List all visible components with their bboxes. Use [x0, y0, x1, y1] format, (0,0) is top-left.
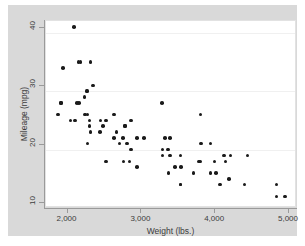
y-tick-label: 10	[8, 196, 37, 205]
scatter-point	[125, 142, 129, 146]
gridline	[46, 33, 295, 34]
scatter-point	[227, 177, 231, 181]
scatter-point	[218, 183, 222, 187]
scatter-point	[142, 136, 146, 140]
scatter-point	[243, 183, 247, 187]
scatter-point	[209, 142, 213, 146]
scatter-point	[199, 142, 203, 146]
scatter-point	[135, 136, 139, 140]
scatter-point	[160, 101, 164, 105]
scatter-point	[168, 154, 172, 158]
scatter-point	[283, 195, 287, 199]
gridline	[46, 91, 295, 92]
scatter-point	[115, 130, 119, 134]
scatter-point	[224, 160, 228, 164]
y-tick-mark	[39, 85, 44, 86]
scatter-point	[69, 119, 73, 123]
scatter-point	[89, 130, 93, 134]
scatter-point	[98, 130, 102, 134]
gridline	[46, 150, 295, 151]
y-tick-mark	[39, 27, 44, 28]
x-tick-label: 5,000	[278, 214, 298, 223]
scatter-point	[118, 142, 122, 146]
scatter-point	[91, 84, 95, 88]
scatter-point	[214, 171, 218, 175]
x-tick-mark	[288, 209, 289, 213]
scatter-point	[88, 124, 92, 128]
scatter-point	[163, 136, 167, 140]
scatter-point	[222, 154, 226, 158]
scatter-point	[213, 160, 217, 164]
scatter-point	[128, 160, 132, 164]
x-tick-label: 4,000	[204, 214, 224, 223]
scatter-point	[104, 160, 108, 164]
x-tick-label: 2,000	[56, 214, 76, 223]
scatter-point	[168, 136, 172, 140]
graph-region: Mileage (mpg) 10203040 2,0003,0004,0005,…	[8, 5, 297, 236]
scatter-point	[61, 66, 65, 70]
scatter-point	[56, 113, 60, 117]
scatter-point	[199, 113, 203, 117]
scatter-point	[173, 165, 177, 169]
scatter-point	[73, 119, 77, 123]
x-axis-line	[44, 208, 297, 209]
y-tick-mark	[39, 144, 44, 145]
scatter-point	[86, 142, 90, 146]
scatter-point	[75, 101, 79, 105]
scatter-point	[83, 95, 87, 99]
stata-scatter-screenshot: Mileage (mpg) 10203040 2,0003,0004,0005,…	[0, 0, 305, 246]
scatter-point	[88, 119, 92, 123]
scatter-point	[179, 165, 183, 169]
scatter-point	[59, 101, 63, 105]
x-tick-mark	[67, 209, 68, 213]
y-tick-mark	[39, 202, 44, 203]
scatter-point	[192, 171, 196, 175]
scatter-point	[86, 113, 90, 117]
scatter-point	[246, 154, 250, 158]
scatter-point	[79, 60, 83, 64]
scatter-point	[112, 113, 116, 117]
scatter-point	[72, 25, 76, 29]
x-axis-title: Weight (lbs.)	[45, 226, 296, 236]
x-tick-mark	[140, 209, 141, 213]
scatter-point	[209, 171, 213, 175]
y-axis-title: Mileage (mpg)	[19, 87, 29, 141]
scatter-point	[104, 119, 108, 123]
scatter-point	[135, 165, 139, 169]
scatter-point	[122, 160, 126, 164]
scatter-point	[199, 160, 203, 164]
scatter-point	[275, 195, 279, 199]
y-axis-title-container: Mileage (mpg)	[18, 20, 30, 208]
plot-area	[46, 21, 295, 206]
scatter-point	[86, 89, 90, 93]
scatter-point	[161, 148, 165, 152]
y-tick-label: 30	[8, 79, 37, 88]
y-tick-label: 40	[8, 21, 37, 30]
scatter-point	[166, 148, 170, 152]
x-tick-mark	[214, 209, 215, 213]
scatter-point	[123, 124, 127, 128]
scatter-point	[121, 136, 125, 140]
scatter-point	[129, 148, 133, 152]
scatter-point	[112, 136, 116, 140]
scatter-point	[129, 119, 133, 123]
scatter-point	[229, 154, 233, 158]
scatter-point	[89, 60, 93, 64]
plot-frame	[45, 20, 296, 207]
scatter-point	[179, 154, 183, 158]
scatter-point	[101, 124, 105, 128]
scatter-point	[179, 183, 183, 187]
y-tick-label: 20	[8, 138, 37, 147]
scatter-point	[167, 171, 171, 175]
scatter-point	[99, 119, 103, 123]
x-tick-label: 3,000	[130, 214, 150, 223]
scatter-point	[161, 154, 165, 158]
scatter-point	[275, 183, 279, 187]
